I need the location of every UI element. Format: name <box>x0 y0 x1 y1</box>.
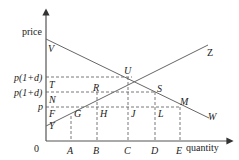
x-axis-label: quantity <box>186 142 219 153</box>
quantity-label-E: E <box>175 145 182 156</box>
price-label-middle: p(1+d) <box>13 87 43 99</box>
point-label-U: U <box>124 65 132 76</box>
point-label-Z: Z <box>207 47 213 58</box>
point-label-W: W <box>208 111 218 122</box>
point-label-T: T <box>49 79 56 90</box>
point-label-R: R <box>92 82 99 93</box>
point-label-J: J <box>131 108 136 119</box>
point-label-H: H <box>99 108 108 119</box>
quantity-label-A: A <box>66 145 74 156</box>
point-label-N: N <box>48 94 57 105</box>
price-quantity-diagram: price quantity 0 p(1+d) p(1+d) p A B C D… <box>0 0 239 160</box>
point-label-G: G <box>74 108 81 119</box>
price-label-base: p <box>37 101 43 112</box>
y-axis-label: price <box>22 26 43 37</box>
point-label-V: V <box>48 43 56 54</box>
supply-line-YZ <box>46 45 208 126</box>
point-label-L: L <box>157 108 164 119</box>
quantity-label-B: B <box>93 145 99 156</box>
point-label-M: M <box>179 96 189 107</box>
quantity-label-C: C <box>124 145 131 156</box>
price-label-top: p(1+d) <box>13 72 43 84</box>
quantity-label-D: D <box>150 145 159 156</box>
point-label-F: F <box>48 108 56 119</box>
origin-label: 0 <box>34 143 39 154</box>
point-label-S: S <box>157 83 162 94</box>
